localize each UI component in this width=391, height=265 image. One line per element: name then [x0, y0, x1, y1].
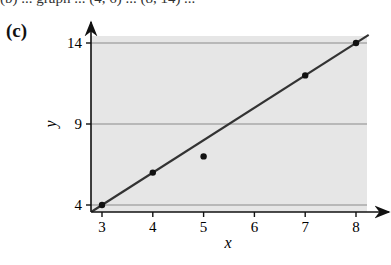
x-axis-label: x	[223, 234, 231, 251]
y-axis-label: y	[42, 120, 60, 130]
x-tick-label: 6	[251, 219, 259, 235]
x-tick-label: 4	[149, 219, 157, 235]
data-point	[353, 40, 359, 46]
y-tick-label: 9	[75, 116, 83, 132]
x-tick-label: 5	[200, 219, 208, 235]
data-point	[150, 169, 156, 175]
x-tick-label: 8	[352, 219, 360, 235]
y-ticks: 4914	[67, 35, 91, 213]
data-point	[200, 153, 206, 159]
x-ticks: 345678	[98, 212, 360, 235]
data-point	[302, 72, 308, 78]
y-tick-label: 4	[75, 197, 83, 213]
scatter-chart: 345678 4914 x y	[0, 0, 391, 265]
data-point	[99, 202, 105, 208]
x-tick-label: 7	[301, 219, 309, 235]
x-tick-label: 3	[98, 219, 106, 235]
y-tick-label: 14	[67, 35, 83, 51]
